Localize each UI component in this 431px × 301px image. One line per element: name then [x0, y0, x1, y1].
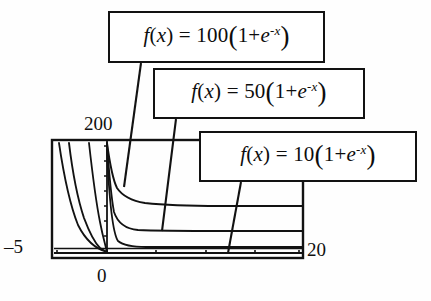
- leader-line-100: [124, 63, 141, 187]
- formula-100-equals: =: [179, 23, 191, 47]
- formula-100-base: e: [260, 23, 270, 47]
- formula-10-exponent: -x: [356, 142, 367, 157]
- x-axis-min-label: –5: [4, 236, 23, 258]
- formula-100-big-paren-open: (: [228, 21, 237, 51]
- formula-10-paren-close: ): [263, 142, 270, 166]
- figure-container: f(x) = 100(1+e-x) f(x) = 50(1+e-x) f(x) …: [0, 0, 431, 301]
- leader-line-50: [162, 119, 176, 231]
- formula-50-big-paren-open: (: [266, 77, 275, 107]
- formula-50-big-paren-close: ): [318, 77, 327, 107]
- curve-10-left: [59, 143, 107, 252]
- formula-50-var: x: [204, 79, 214, 103]
- formula-100-coefficient: 100: [196, 23, 228, 47]
- curve-100-left: [69, 143, 107, 252]
- formula-100-one: 1: [238, 23, 249, 47]
- callout-box-50[interactable]: f(x) = 50(1+e-x): [153, 68, 365, 119]
- y-axis-max-label: 200: [84, 113, 113, 135]
- callout-box-10[interactable]: f(x) = 10(1+e-x): [199, 131, 417, 182]
- formula-100-var: x: [157, 23, 167, 47]
- formula-10: f(x) = 10(1+e-x): [240, 140, 376, 171]
- formula-50: f(x) = 50(1+e-x): [191, 77, 327, 108]
- x-axis-max-label: 20: [307, 239, 326, 261]
- formula-50-one: 1: [275, 79, 286, 103]
- formula-10-coefficient: 10: [293, 142, 314, 166]
- formula-10-var: x: [253, 142, 263, 166]
- formula-100-paren-close: ): [166, 23, 173, 47]
- leader-line-10: [228, 182, 241, 253]
- formula-50-paren-close: ): [214, 79, 221, 103]
- formula-50-base: e: [298, 79, 308, 103]
- formula-10-one: 1: [324, 142, 335, 166]
- formula-50-exponent: -x: [307, 79, 318, 94]
- formula-100-plus: +: [248, 23, 260, 47]
- formula-10-plus: +: [334, 142, 346, 166]
- formula-50-coefficient: 50: [244, 79, 265, 103]
- formula-50-plus: +: [285, 79, 297, 103]
- formula-100-big-paren-close: ): [280, 21, 289, 51]
- formula-100-exponent: -x: [270, 23, 281, 38]
- formula-100: f(x) = 100(1+e-x): [143, 21, 289, 52]
- formula-10-base: e: [347, 142, 357, 166]
- callout-box-100[interactable]: f(x) = 100(1+e-x): [108, 11, 325, 63]
- formula-10-equals: =: [276, 142, 288, 166]
- formula-10-big-paren-close: ): [367, 140, 376, 170]
- formula-10-big-paren-open: (: [315, 140, 324, 170]
- x-axis: [54, 249, 302, 254]
- x-axis-zero-label: 0: [97, 265, 107, 287]
- formula-50-equals: =: [227, 79, 239, 103]
